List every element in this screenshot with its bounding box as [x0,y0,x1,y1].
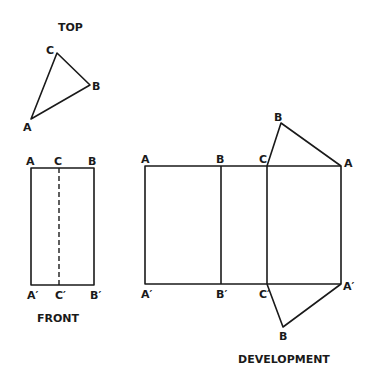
dev-label-b-prime: B′ [216,288,227,301]
top-view-title: TOP [58,21,83,34]
front-view-title: FRONT [37,312,80,325]
top-view: TOP C B A [23,21,100,134]
front-label-b: B [88,155,96,168]
front-view: A C B A′ C′ B′ FRONT [26,155,101,325]
front-label-c: C [54,155,62,168]
top-label-b: B [92,80,100,93]
development-bottom-flap [267,284,341,327]
front-label-a: A [26,155,35,168]
dev-label-a-prime: A′ [141,288,153,301]
front-label-c-prime: C′ [55,289,66,302]
prism-development-diagram: TOP C B A A C B A′ C′ B′ FRONT A B C A B… [0,0,368,377]
development-title: DEVELOPMENT [238,353,330,366]
development-view: A B C A B A′ B′ C′ A′ B DEVELOPMENT [141,111,355,366]
development-top-flap [267,123,341,166]
front-label-b-prime: B′ [90,289,101,302]
dev-label-bottom-flap-b: B [279,330,287,343]
dev-label-c: C [259,153,267,166]
top-label-a: A [23,121,32,134]
dev-label-a: A [141,153,150,166]
front-view-rect [31,168,94,285]
dev-label-a2: A [344,157,353,170]
top-view-triangle [31,53,90,119]
front-label-a-prime: A′ [27,289,39,302]
dev-label-c-prime: C′ [259,288,270,301]
dev-label-b: B [216,153,224,166]
development-rect [145,166,341,284]
dev-label-top-flap-b: B [274,111,282,124]
dev-label-a2-prime: A′ [343,280,355,293]
top-label-c: C [46,44,54,57]
